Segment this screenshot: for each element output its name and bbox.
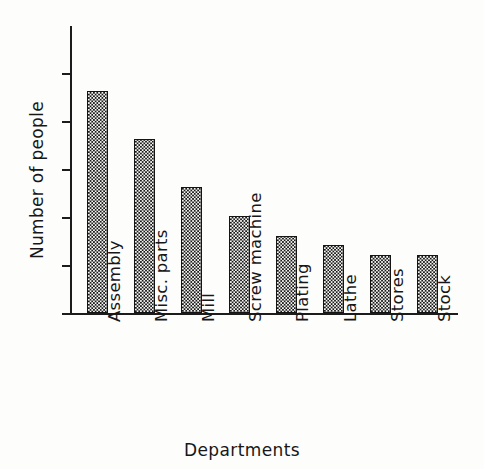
x-tick-label-misc-parts: Misc. parts	[152, 229, 171, 322]
x-tick-label-stock: Stock	[435, 275, 454, 322]
x-tick-label-lathe: Lathe	[341, 274, 360, 322]
x-tick-label-mill: Mill	[199, 293, 218, 322]
y-tick-20	[62, 121, 71, 123]
y-tick-25	[62, 73, 71, 75]
y-tick-5	[62, 265, 71, 267]
x-tick-label-screw-machine: Screw machine	[246, 192, 265, 322]
y-tick-0	[62, 313, 71, 315]
bar-chart-figure: Number of people 0 5 10 15 20 25 Assembl…	[0, 0, 484, 469]
x-tick-label-plating: Plating	[293, 263, 312, 322]
y-tick-15	[62, 169, 71, 171]
y-axis-title: Number of people	[27, 80, 47, 280]
x-tick-label-assembly: Assembly	[105, 240, 124, 322]
x-tick-label-stores: Stores	[388, 268, 407, 322]
y-tick-10	[62, 217, 71, 219]
x-axis-title: Departments	[0, 440, 484, 460]
